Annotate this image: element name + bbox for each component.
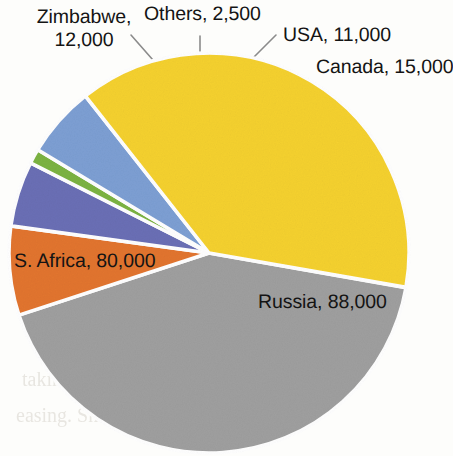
pie-label-canada: Canada, 15,000	[316, 56, 453, 79]
pie-label-zimbabwe-line1: Zimbabwe,	[37, 6, 131, 28]
pie-label-usa: USA, 11,000	[283, 24, 391, 47]
pie-label-others: Others, 2,500	[144, 3, 261, 26]
pie-label-safrica: S. Africa, 80,000	[14, 250, 155, 273]
pie-label-zimbabwe: Zimbabwe,12,000	[18, 6, 150, 52]
pie-label-russia: Russia, 88,000	[258, 291, 387, 314]
pie-label-zimbabwe-line2: 12,000	[54, 29, 113, 51]
